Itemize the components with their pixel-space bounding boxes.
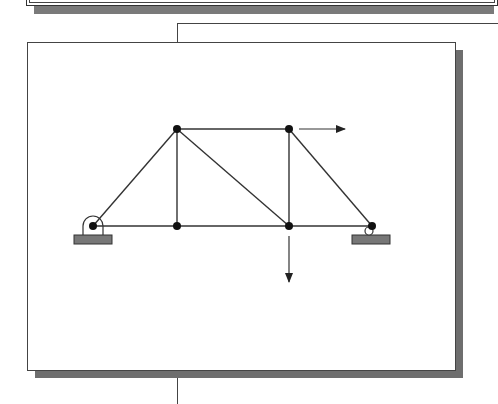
- roller-support-base: [352, 235, 390, 244]
- member-BE: [177, 129, 289, 226]
- joint-E: [285, 222, 293, 230]
- joint-A: [89, 222, 97, 230]
- member-DF: [289, 129, 372, 226]
- joint-D: [285, 125, 293, 133]
- truss-members: [93, 129, 372, 226]
- joint-F: [368, 222, 376, 230]
- pin-support-base: [74, 235, 112, 244]
- truss-loads: [289, 129, 345, 282]
- joint-B: [173, 125, 181, 133]
- truss-supports: [74, 216, 390, 244]
- member-AB: [93, 129, 177, 226]
- joint-C: [173, 222, 181, 230]
